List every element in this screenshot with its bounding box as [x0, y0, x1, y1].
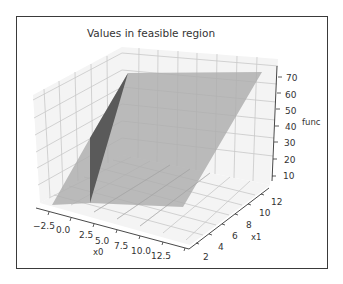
- svg-text:0.0: 0.0: [56, 225, 71, 235]
- svg-text:70: 70: [286, 73, 298, 83]
- func-tick-labels: 10 20 30 40 50 60 70: [283, 73, 298, 181]
- svg-text:60: 60: [285, 90, 297, 100]
- chart-title: Values in feasible region: [87, 27, 215, 39]
- svg-text:20: 20: [284, 155, 296, 165]
- svg-text:50: 50: [285, 106, 297, 116]
- svg-text:8: 8: [246, 220, 252, 230]
- svg-text:2: 2: [203, 252, 209, 262]
- svg-text:30: 30: [284, 138, 296, 148]
- svg-text:5.0: 5.0: [95, 236, 110, 246]
- svg-text:12.5: 12.5: [151, 251, 171, 261]
- svg-text:12: 12: [271, 197, 282, 207]
- x0-axis-label: x0: [93, 247, 103, 257]
- svg-text:10: 10: [259, 208, 271, 218]
- func-axis-label: func: [302, 117, 321, 127]
- x1-axis-label: x1: [251, 232, 261, 242]
- svg-text:10: 10: [283, 171, 295, 181]
- svg-text:10.0: 10.0: [131, 246, 151, 256]
- svg-text:6: 6: [232, 231, 238, 241]
- svg-text:7.5: 7.5: [114, 241, 128, 251]
- plot-3d: Values in feasible region 10 20 30 40 50…: [0, 0, 343, 284]
- svg-text:4: 4: [218, 242, 224, 252]
- svg-text:2.5: 2.5: [79, 230, 93, 240]
- svg-text:−2.5: −2.5: [33, 221, 55, 231]
- svg-text:40: 40: [285, 122, 297, 132]
